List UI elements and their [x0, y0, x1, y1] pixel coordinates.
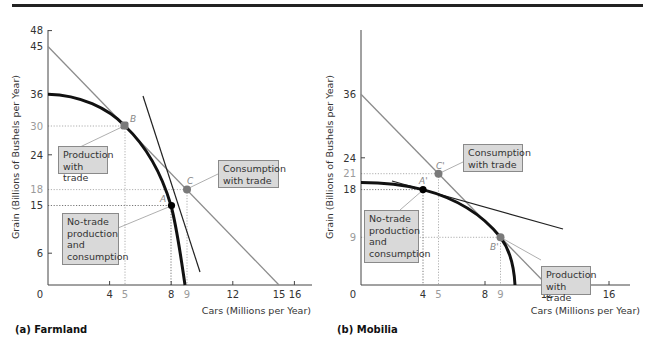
- point-a: [168, 202, 175, 209]
- y-tick-48: 48: [30, 25, 43, 36]
- x-tick-4-b: 4: [420, 289, 426, 300]
- callout-no-trade-a: No-trade production and consumption: [62, 213, 119, 265]
- point-a-prime: [419, 186, 426, 193]
- point-label-a: A: [159, 194, 166, 204]
- x-tick-12: 12: [226, 289, 239, 300]
- point-label-c-prime: C': [436, 161, 445, 171]
- y-tick-21-b: 21: [343, 168, 356, 179]
- caption-b: (b) Mobilia: [337, 324, 398, 335]
- y-tick-24-b: 24: [343, 153, 356, 164]
- x-tick-8: 8: [168, 289, 174, 300]
- x-tick-0: 0: [37, 289, 43, 300]
- y-ticks-a: [48, 31, 52, 254]
- x-axis-label-a: Cars (Millions per Year): [202, 305, 311, 316]
- y-tick-45: 45: [30, 41, 43, 52]
- point-label-a-prime: A': [418, 176, 428, 186]
- point-label-c: C: [187, 176, 194, 186]
- x-tick-9-b: 9: [497, 289, 503, 300]
- top-rule: [12, 4, 643, 7]
- point-b-prime: [497, 233, 505, 241]
- x-ticks-a: [110, 281, 295, 285]
- callout-consumption-with-trade-a: Consumption with trade: [218, 160, 279, 188]
- callout-production-with-trade-b: Production with trade: [541, 266, 591, 295]
- x-tick-16-b: 16: [603, 289, 616, 300]
- callout-no-trade-b: No-trade production and consumption: [364, 210, 419, 263]
- x-tick-4: 4: [106, 289, 112, 300]
- point-c: [183, 186, 191, 194]
- y-tick-24: 24: [30, 150, 43, 161]
- y-tick-6: 6: [37, 248, 43, 259]
- y-tick-9-b: 9: [350, 232, 356, 243]
- panel-b-mobilia: C' A' B' 36 24 21 18 9 0 4 5 8 9 12 16 C…: [324, 30, 640, 335]
- x-tick-8-b: 8: [482, 289, 488, 300]
- y-axis-label-b: Grain (Billions of Bushels per Year): [324, 75, 335, 239]
- x-tick-5: 5: [122, 289, 128, 300]
- caption-a: (a) Farmland: [15, 324, 87, 335]
- callout-consumption-with-trade-b: Consumption with trade: [463, 144, 523, 172]
- point-label-b-prime: B': [490, 242, 499, 252]
- y-tick-36: 36: [30, 89, 43, 100]
- y-tick-30: 30: [30, 121, 43, 132]
- y-tick-18-b: 18: [343, 184, 356, 195]
- x-tick-9: 9: [184, 289, 190, 300]
- y-tick-15: 15: [30, 200, 43, 211]
- y-tick-36-b: 36: [343, 89, 356, 100]
- y-tick-18: 18: [30, 184, 43, 195]
- x-tick-5-b: 5: [435, 289, 441, 300]
- y-axis-label-a: Grain (Billions of Bushels per Year): [10, 75, 21, 239]
- x-tick-0-b: 0: [350, 289, 356, 300]
- point-b: [121, 122, 129, 130]
- x-tick-16: 16: [289, 289, 302, 300]
- x-tick-15: 15: [273, 289, 286, 300]
- callout-production-with-trade-a: Production with trade: [58, 146, 108, 174]
- point-label-b: B: [130, 114, 136, 124]
- x-axis-label-b: Cars (Millions per Year): [531, 305, 640, 316]
